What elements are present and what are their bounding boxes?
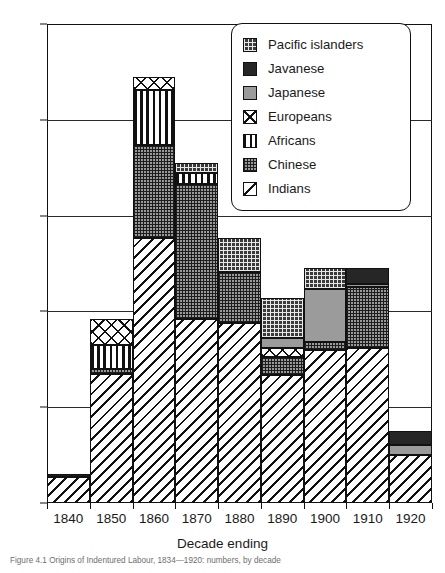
- bar-segment-europeans: [261, 348, 304, 358]
- bar-segment-indians: [261, 375, 304, 503]
- legend-item-pacific[interactable]: Pacific islanders: [243, 33, 400, 57]
- bar-segment-chinese: [218, 272, 261, 323]
- x-axis-tick-mark: [432, 503, 433, 509]
- x-axis-tick-mark: [218, 503, 219, 509]
- bar-segment-pacific: [304, 268, 347, 289]
- bar-segment-chinese: [261, 357, 304, 374]
- y-axis-tick-mark: [40, 119, 47, 120]
- bar-1870: [175, 24, 218, 503]
- legend-swatch-javanese-icon: [243, 62, 257, 76]
- bar-segment-japanese: [261, 338, 304, 348]
- x-axis-tick-label: 1920: [381, 512, 441, 526]
- bar-segment-chinese: [304, 342, 347, 350]
- y-axis-tick-mark: [40, 24, 47, 25]
- bar-segment-indians: [90, 374, 133, 503]
- legend-item-indians[interactable]: Indians: [243, 177, 400, 201]
- bar-segment-chinese: [346, 287, 389, 347]
- bar-1840: [47, 24, 90, 503]
- x-axis-title: Decade ending: [0, 537, 445, 551]
- figure-caption: Figure 4.1 Origins of Indentured Labour,…: [10, 556, 435, 565]
- x-axis-tick-mark: [346, 503, 347, 509]
- legend-swatch-indians-icon: [243, 182, 257, 196]
- bar-segment-indians: [175, 319, 218, 503]
- bar-segment-japanese: [346, 284, 389, 288]
- bar-segment-europeans: [133, 77, 176, 90]
- x-axis-tick-mark: [175, 503, 176, 509]
- bar-segment-javanese: [389, 431, 432, 444]
- legend-item-africans[interactable]: Africans: [243, 129, 400, 153]
- bar-segment-africans: [133, 90, 176, 145]
- legend-label: Africans: [268, 134, 316, 147]
- legend-label: Indians: [268, 182, 311, 195]
- x-axis-tick-mark: [133, 503, 134, 509]
- legend-item-japanese[interactable]: Japanese: [243, 81, 400, 105]
- legend-swatch-chinese-icon: [243, 158, 257, 172]
- bar-segment-pacific: [218, 238, 261, 272]
- legend-label: Pacific islanders: [268, 38, 363, 51]
- bar-segment-japanese: [304, 289, 347, 342]
- bar-segment-chinese: [175, 184, 218, 319]
- y-axis-tick-mark: [40, 215, 47, 216]
- bar-segment-chinese: [133, 145, 176, 238]
- legend-item-europeans[interactable]: Europeans: [243, 105, 400, 129]
- legend-label: Japanese: [268, 86, 325, 99]
- legend-label: Chinese: [268, 158, 316, 171]
- legend-swatch-europeans-icon: [243, 110, 257, 124]
- legend-swatch-pacific-icon: [243, 38, 257, 52]
- bar-segment-indians: [304, 350, 347, 503]
- chart-page: 0100200300400500 18401850186018701880189…: [0, 0, 445, 573]
- y-axis-tick-mark: [40, 407, 47, 408]
- bar-segment-europeans: [90, 319, 133, 345]
- x-axis-tick-mark: [261, 503, 262, 509]
- legend-item-chinese[interactable]: Chinese: [243, 153, 400, 177]
- legend-label: Javanese: [268, 62, 324, 75]
- legend-swatch-japanese-icon: [243, 86, 257, 100]
- bar-segment-indians: [389, 455, 432, 503]
- y-axis-tick-mark: [40, 311, 47, 312]
- bar-segment-indians: [47, 477, 90, 503]
- x-axis-tick-mark: [389, 503, 390, 509]
- legend-item-javanese[interactable]: Javanese: [243, 57, 400, 81]
- bar-segment-indians: [133, 238, 176, 503]
- x-axis-tick-mark: [304, 503, 305, 509]
- bar-1860: [133, 24, 176, 503]
- bar-segment-indians: [346, 348, 389, 503]
- bar-segment-chinese: [90, 369, 133, 374]
- bar-segment-japanese: [389, 445, 432, 456]
- bar-segment-javanese: [346, 268, 389, 283]
- bar-segment-africans: [90, 345, 133, 369]
- x-axis-tick-mark: [90, 503, 91, 509]
- bar-segment-chinese: [47, 474, 90, 477]
- chart-legend: Pacific islandersJavaneseJapaneseEuropea…: [231, 23, 411, 211]
- bar-segment-pacific: [175, 163, 218, 174]
- bar-segment-africans: [175, 173, 218, 184]
- x-axis-tick-mark: [47, 503, 48, 509]
- y-axis-tick-mark: [40, 503, 47, 504]
- bar-segment-pacific: [261, 298, 304, 338]
- legend-swatch-africans-icon: [243, 134, 257, 148]
- legend-label: Europeans: [268, 110, 332, 123]
- bar-segment-indians: [218, 323, 261, 503]
- bar-1850: [90, 24, 133, 503]
